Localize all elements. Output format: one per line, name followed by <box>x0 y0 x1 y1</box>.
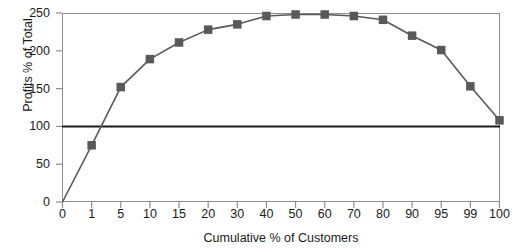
x-tick-label: 80 <box>376 207 390 221</box>
x-tick-label: 95 <box>434 207 448 221</box>
x-tick-label: 5 <box>117 207 124 221</box>
data-point-marker[interactable] <box>233 20 242 29</box>
x-tick-label: 99 <box>463 207 477 221</box>
y-tick-label: 250 <box>16 6 50 20</box>
x-tick-label: 70 <box>347 207 361 221</box>
x-tick-label: 100 <box>489 207 510 221</box>
data-point-marker[interactable] <box>146 55 155 64</box>
data-point-marker[interactable] <box>495 116 504 125</box>
data-series-line <box>63 15 500 202</box>
data-point-marker[interactable] <box>117 83 126 92</box>
x-tick-label: 0 <box>59 207 66 221</box>
x-tick-label: 40 <box>259 207 273 221</box>
x-tick-label: 50 <box>289 207 303 221</box>
data-point-marker[interactable] <box>320 10 329 19</box>
data-point-marker[interactable] <box>262 12 271 21</box>
data-point-marker[interactable] <box>291 10 300 19</box>
chart-figure: Profits % of Total 050100150200250 01510… <box>0 0 514 250</box>
x-tick-label: 1 <box>88 207 95 221</box>
data-point-marker[interactable] <box>466 82 475 91</box>
x-tick-label: 30 <box>230 207 244 221</box>
y-tick-label: 150 <box>16 82 50 96</box>
data-point-marker[interactable] <box>350 12 359 21</box>
data-point-marker[interactable] <box>175 38 184 47</box>
data-point-marker[interactable] <box>408 31 417 40</box>
plot-area <box>62 13 500 202</box>
x-axis-tick-labels: 015101520304050607080909599100 <box>62 207 500 225</box>
x-tick-label: 90 <box>405 207 419 221</box>
data-point-marker[interactable] <box>87 141 96 150</box>
x-tick-label: 60 <box>318 207 332 221</box>
data-point-marker[interactable] <box>204 25 213 34</box>
y-tick-label: 50 <box>16 157 50 171</box>
y-axis-tick-labels: 050100150200250 <box>16 13 50 202</box>
y-tick-label: 200 <box>16 44 50 58</box>
chart-svg <box>62 13 500 202</box>
data-point-marker[interactable] <box>379 16 388 25</box>
x-tick-label: 15 <box>172 207 186 221</box>
y-tick-label: 0 <box>16 195 50 209</box>
x-tick-label: 20 <box>201 207 215 221</box>
x-tick-label: 10 <box>143 207 157 221</box>
y-tick-label: 100 <box>16 119 50 133</box>
x-axis-title: Cumulative % of Customers <box>62 231 500 245</box>
data-point-marker[interactable] <box>437 46 446 55</box>
